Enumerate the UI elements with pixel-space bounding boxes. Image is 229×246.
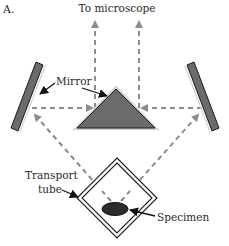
transport-tube-pointer: [62, 190, 78, 197]
specimen: [102, 203, 128, 216]
transport-tube-label-line2: tube: [38, 183, 62, 195]
left-mirror: [11, 62, 45, 132]
title-to-microscope: To microscope: [79, 2, 156, 14]
mirror-pointer-left: [40, 83, 55, 94]
mirror-label: Mirror: [56, 75, 92, 87]
transport-tube: [77, 158, 157, 238]
transport-tube-label-line1: Transport: [25, 169, 78, 181]
optical-diagram: A. To microscope Mirror: [0, 0, 229, 246]
specimen-label: Specimen: [157, 211, 210, 223]
panel-label: A.: [2, 3, 14, 16]
right-mirror: [185, 62, 219, 132]
